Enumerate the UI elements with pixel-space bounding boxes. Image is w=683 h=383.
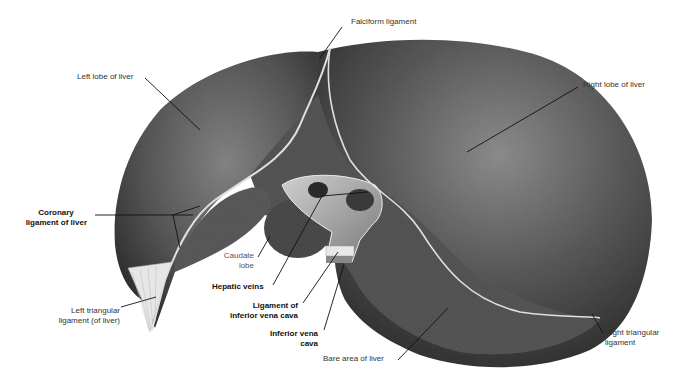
label-hepatic-veins: Hepatic veins xyxy=(212,282,264,292)
label-line: ligament of liver xyxy=(17,218,87,228)
label-left-lobe: Left lobe of liver xyxy=(77,72,133,82)
label-right-triangular-ligament: Right triangular ligament xyxy=(605,328,659,348)
label-falciform-ligament: Falciform ligament xyxy=(351,17,416,27)
label-bare-area: Bare area of liver xyxy=(323,354,384,364)
label-right-lobe: Right lobe of liver xyxy=(583,80,645,90)
label-line: Left triangular xyxy=(40,306,120,316)
label-left-triangular-ligament: Left triangular ligament (of liver) xyxy=(40,306,120,326)
ivc-ligament-band xyxy=(326,246,354,256)
label-ligament-of-ivc: Ligament of inferior vena cava xyxy=(220,301,298,321)
label-line: ligament xyxy=(605,338,659,348)
label-inferior-vena-cava: Inferior vena cava xyxy=(256,329,318,349)
label-coronary-ligament: Coronary ligament of liver xyxy=(17,208,87,228)
label-line: ligament (of liver) xyxy=(40,316,120,326)
label-line: inferior vena cava xyxy=(220,311,298,321)
label-caudate-lobe: Caudate lobe xyxy=(204,251,254,271)
label-line: cava xyxy=(256,339,318,349)
label-line: Coronary xyxy=(17,208,87,218)
label-line: Right triangular xyxy=(605,328,659,338)
label-line: Inferior vena xyxy=(256,329,318,339)
label-line: lobe xyxy=(204,261,254,271)
label-line: Caudate xyxy=(204,251,254,261)
label-line: Ligament of xyxy=(220,301,298,311)
